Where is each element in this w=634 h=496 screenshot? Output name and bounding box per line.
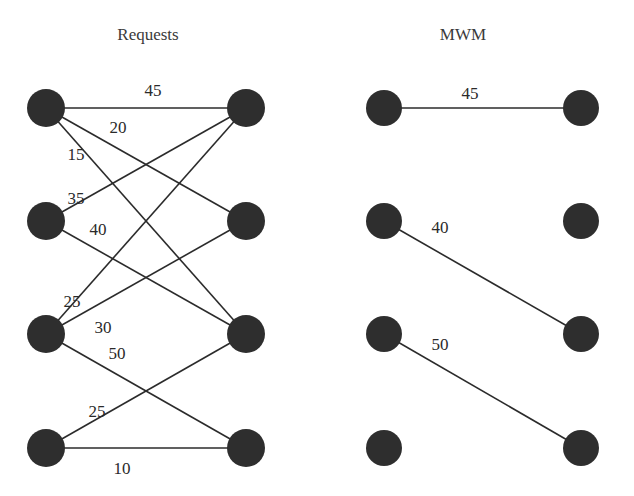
left-node-3 [366,316,402,352]
edge-weight-label: 20 [110,118,127,137]
edge-weight-label: 25 [64,292,81,311]
edge-weight-label: 50 [109,344,126,363]
left-node-1 [366,90,402,126]
right-node-3 [563,316,599,352]
edge-weight-label: 50 [432,335,449,354]
edge-weight-label: 40 [90,220,107,239]
left-node-3 [27,315,65,353]
edge-weight-label: 45 [462,84,479,103]
requests-weight-labels: 45201535402530502510 [64,81,162,478]
edge-weight-label: 10 [114,459,131,478]
edge-weight-label: 40 [432,218,449,237]
left-node-2 [366,203,402,239]
right-node-4 [563,430,599,466]
edge-l3-r4 [384,334,581,448]
right-node-2 [227,202,265,240]
mwm-graph: MWM 454050 [366,25,599,466]
right-node-1 [227,89,265,127]
left-node-4 [27,429,65,467]
edge-weight-label: 45 [145,81,162,100]
edge-weight-label: 35 [68,189,85,208]
right-node-1 [563,90,599,126]
edge-weight-label: 30 [95,318,112,337]
left-node-4 [366,430,402,466]
right-node-4 [227,429,265,467]
left-node-2 [27,202,65,240]
left-node-1 [27,89,65,127]
mwm-title: MWM [440,25,486,44]
edge-l2-r3 [384,221,581,334]
edge-weight-label: 25 [89,402,106,421]
mwm-weight-labels: 454050 [432,84,479,354]
edge-weight-label: 15 [68,145,85,164]
requests-title: Requests [117,25,178,44]
right-node-3 [227,315,265,353]
requests-graph: Requests 45201535402530502510 [27,25,265,478]
right-node-2 [563,203,599,239]
bipartite-matching-diagram: Requests 45201535402530502510 MWM 454050 [0,0,634,496]
mwm-edges [384,108,581,448]
